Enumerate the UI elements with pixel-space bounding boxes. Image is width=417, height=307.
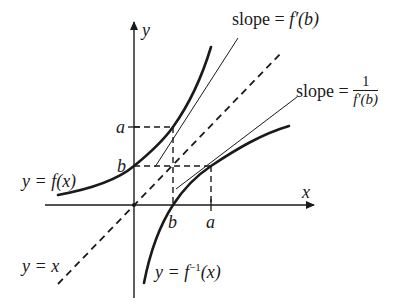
slope-f-prefix: slope = [232, 9, 289, 29]
identity-line-label: y = x [22, 257, 59, 275]
f-inverse-label-sup: −1 [189, 261, 201, 273]
diagram-canvas [0, 0, 417, 307]
x-axis-label: x [302, 183, 310, 201]
identity-line [58, 52, 282, 284]
x-tick-label-b: b [168, 213, 177, 231]
y-tick-label-a: a [116, 118, 125, 136]
y-axis-label: y [142, 21, 150, 39]
f-curve-label: y = f(x) [22, 172, 76, 190]
f-inverse-label-suffix: (x) [201, 262, 221, 282]
slope-f-value: f′(b) [289, 9, 319, 29]
slope-inv-prefix: slope = [296, 81, 353, 101]
slope-f-annotation: slope = f′(b) [232, 10, 319, 28]
f-inverse-curve-label: y = f−1(x) [155, 262, 221, 281]
slope-inv-numerator: 1 [353, 74, 378, 91]
y-tick-label-b: b [117, 157, 126, 175]
slope-inv-denominator: f′(b) [353, 91, 378, 107]
tangent-f [155, 38, 238, 167]
slope-inv-fraction: 1f′(b) [353, 74, 378, 107]
x-tick-label-a: a [206, 213, 215, 231]
f-inverse-label-prefix: y = f [155, 262, 189, 282]
slope-inverse-annotation: slope = 1f′(b) [296, 74, 378, 107]
